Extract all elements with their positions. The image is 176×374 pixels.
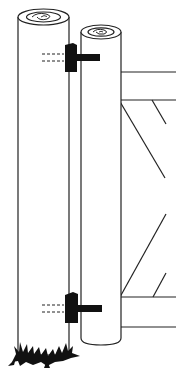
gate-hinge-illustration	[0, 0, 176, 374]
illustration-svg	[0, 0, 176, 374]
upper-gate-rail	[118, 72, 176, 100]
gate-stile	[81, 25, 121, 345]
lower-gate-rail	[119, 297, 176, 327]
diagonal-braces	[119, 100, 166, 297]
